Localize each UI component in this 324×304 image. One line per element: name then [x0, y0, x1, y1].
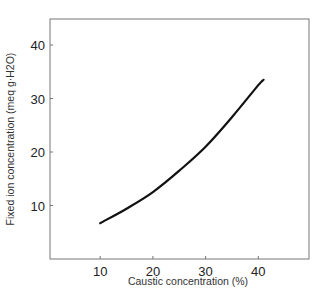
data-line — [100, 80, 263, 223]
y-tick-label: 10 — [31, 199, 45, 214]
y-tick-label: 30 — [31, 92, 45, 107]
plot-frame — [50, 19, 309, 259]
y-tick-label: 20 — [31, 145, 45, 160]
line-chart: 10203040 10203040 Caustic concentration … — [0, 0, 324, 304]
x-tick-label: 40 — [251, 264, 265, 279]
x-axis-label: Caustic concentration (%) — [128, 275, 248, 287]
y-axis-label: Fixed ion concentration (meq g·H2O) — [4, 53, 16, 226]
y-tick-label: 40 — [31, 38, 45, 53]
x-tick-label: 10 — [93, 264, 107, 279]
